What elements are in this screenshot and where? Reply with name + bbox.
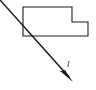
figure-canvas: l bbox=[0, 0, 96, 90]
stepped-rectangle-shape bbox=[23, 7, 88, 36]
vector-label-l: l bbox=[67, 59, 70, 69]
figure-drawing: l bbox=[0, 0, 96, 90]
